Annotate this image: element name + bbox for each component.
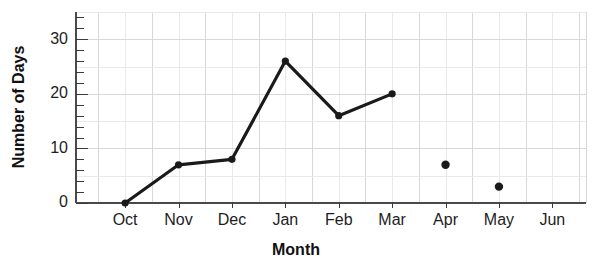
x-tick-label: May (484, 211, 514, 228)
data-point-marker (175, 161, 182, 168)
x-tick-label: Nov (164, 211, 192, 228)
x-axis-title: Month (272, 241, 320, 258)
data-point-marker (282, 58, 289, 65)
x-tick-label: Apr (433, 211, 459, 228)
chart-canvas: 0102030 OctNovDecJanFebMarAprMayJun Mont… (0, 0, 601, 265)
x-tick-label: Jan (272, 211, 298, 228)
data-point-marker (389, 90, 396, 97)
x-tick-label: Jun (539, 211, 565, 228)
data-point-marker (228, 156, 235, 163)
y-axis-title: Number of Days (10, 46, 27, 169)
x-tick-label: Feb (325, 211, 353, 228)
y-tick-label: 10 (50, 139, 68, 156)
line-chart-figure: 0102030 OctNovDecJanFebMarAprMayJun Mont… (0, 0, 601, 265)
y-tick-label: 30 (50, 30, 68, 47)
data-point-marker (441, 161, 449, 169)
x-tick-label: Oct (113, 211, 138, 228)
data-point-marker (335, 112, 342, 119)
y-tick-label: 20 (50, 84, 68, 101)
x-axis-tick-labels: OctNovDecJanFebMarAprMayJun (113, 211, 566, 228)
data-point-marker (122, 199, 129, 206)
y-tick-label: 0 (59, 193, 68, 210)
data-point-marker (495, 182, 503, 190)
x-tick-label: Dec (218, 211, 246, 228)
x-tick-label: Mar (378, 211, 406, 228)
